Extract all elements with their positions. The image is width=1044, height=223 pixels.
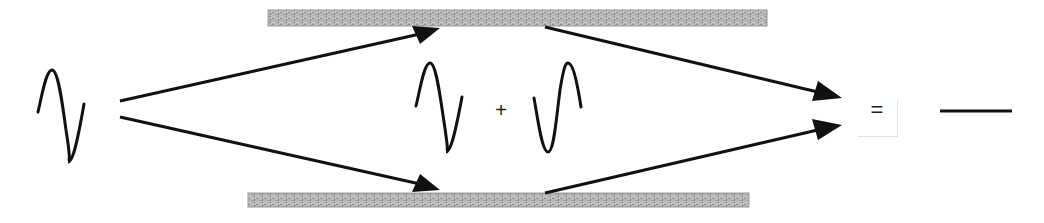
source-wave-icon bbox=[38, 70, 84, 162]
wave-b-icon bbox=[534, 63, 581, 152]
lower-incident-arrow bbox=[120, 117, 440, 192]
top-slab bbox=[268, 10, 767, 26]
wave-a-icon bbox=[416, 63, 462, 152]
upper-reflected-arrow bbox=[545, 27, 842, 101]
upper-incident-arrow bbox=[120, 26, 440, 101]
bottom-slab bbox=[248, 193, 749, 207]
plus-sign: + bbox=[495, 100, 507, 120]
equals-sign: = bbox=[871, 99, 884, 121]
lower-reflected-arrow bbox=[545, 119, 842, 193]
